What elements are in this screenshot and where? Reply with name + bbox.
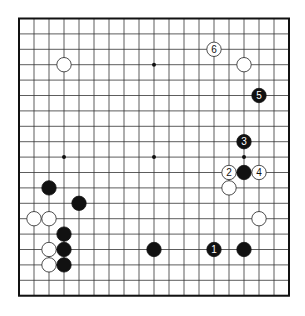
move-number: 3 (241, 136, 247, 147)
white-stone-icon (42, 242, 56, 256)
white-stone (222, 181, 236, 195)
black-stone-icon (42, 181, 56, 195)
black-stone (57, 258, 71, 272)
black-stone-icon (237, 242, 251, 256)
go-board: 653241 (0, 0, 305, 316)
black-stone (72, 196, 86, 210)
star-point (242, 155, 246, 159)
white-stone-icon (42, 212, 56, 226)
white-stone (27, 212, 41, 226)
move-number: 2 (226, 167, 232, 178)
black-stone (237, 242, 251, 256)
white-stone (237, 57, 251, 71)
black-stone (42, 181, 56, 195)
move-number: 4 (256, 167, 262, 178)
white-stone-icon (237, 57, 251, 71)
move-number: 1 (211, 244, 217, 255)
black-stone (147, 242, 161, 256)
black-stone-move-1: 1 (207, 242, 221, 256)
white-stone-move-6: 6 (207, 42, 221, 56)
white-stone-icon (57, 57, 71, 71)
black-stone-icon (147, 242, 161, 256)
star-point (62, 155, 66, 159)
white-stone (252, 212, 266, 226)
black-stone-move-3: 3 (237, 135, 251, 149)
white-stone-icon (252, 212, 266, 226)
black-stone-icon (57, 227, 71, 241)
black-stone-icon (57, 258, 71, 272)
black-stone-icon (57, 242, 71, 256)
white-stone-move-2: 2 (222, 165, 236, 179)
white-stone-icon (27, 212, 41, 226)
white-stone-icon (42, 258, 56, 272)
white-stone (42, 212, 56, 226)
black-stone (57, 242, 71, 256)
white-stone (57, 57, 71, 71)
star-point (152, 63, 156, 67)
star-point (152, 155, 156, 159)
move-number: 5 (256, 90, 262, 101)
black-stone (237, 165, 251, 179)
white-stone (42, 242, 56, 256)
move-number: 6 (211, 44, 217, 55)
white-stone-icon (222, 181, 236, 195)
white-stone (42, 258, 56, 272)
white-stone-move-4: 4 (252, 165, 266, 179)
black-stone-icon (237, 165, 251, 179)
black-stone-icon (72, 196, 86, 210)
black-stone-move-5: 5 (252, 88, 266, 102)
black-stone (57, 227, 71, 241)
